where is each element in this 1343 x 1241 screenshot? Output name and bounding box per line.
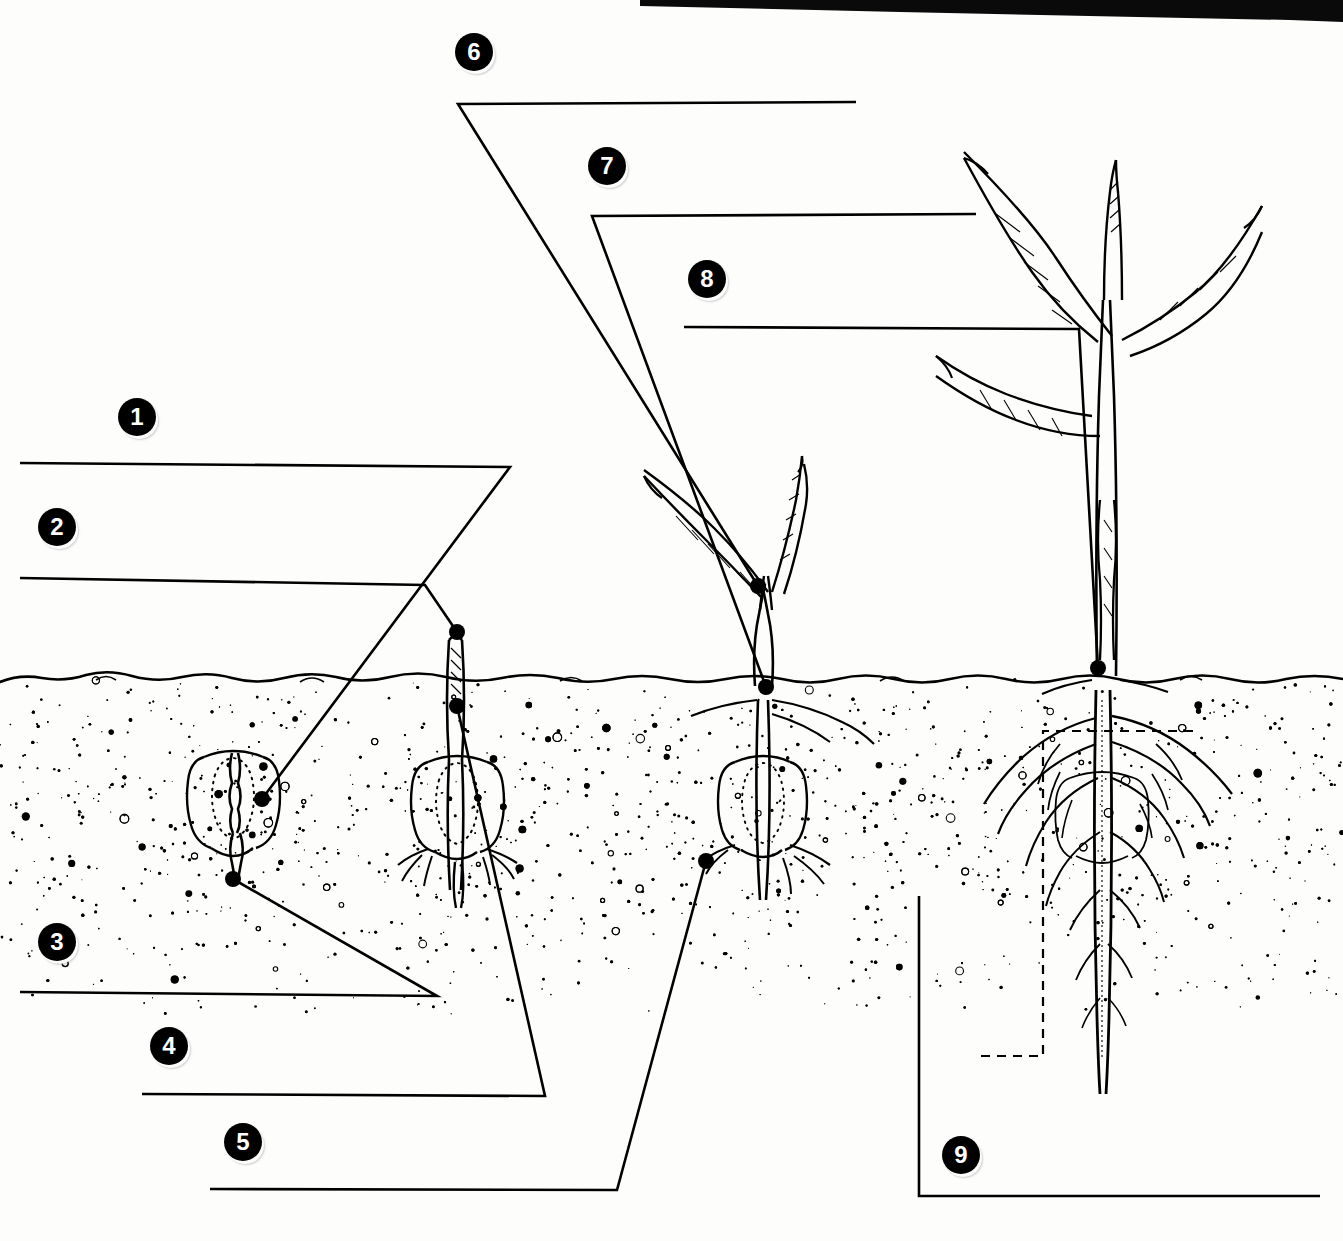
callout-8-anchor-dot [1090, 660, 1106, 676]
callout-8-leader-line [684, 327, 1098, 668]
callout-1-anchor-dot [254, 791, 270, 807]
callout-6-anchor-dot [750, 578, 766, 594]
callout-badge-1[interactable]: 1 [118, 398, 156, 436]
stage-4-established-seedling [936, 152, 1262, 1094]
callout-badge-2[interactable]: 2 [38, 508, 76, 546]
callout-6-leader-line [458, 102, 856, 586]
callout-badge-7[interactable]: 7 [588, 147, 626, 185]
callout-badge-4[interactable]: 4 [150, 1027, 188, 1065]
callout-4-anchor-dot [449, 698, 465, 714]
callout-badge-3[interactable]: 3 [38, 923, 76, 961]
callout-leader-lines [20, 102, 1320, 1196]
callout-5-leader-line [210, 861, 706, 1190]
callout-5-anchor-dot [698, 853, 714, 869]
callout-badge-9[interactable]: 9 [942, 1136, 980, 1174]
callout-1-leader-line [20, 463, 510, 799]
stage-1-imbibed-seed [187, 751, 280, 881]
stage-2-coleoptile-emergence [398, 636, 517, 908]
callout-badge-8[interactable]: 8 [688, 260, 726, 298]
germination-diagram [0, 0, 1343, 1241]
callout-4-leader-line [142, 706, 545, 1096]
callout-3-anchor-dot [225, 871, 241, 887]
callout-2-anchor-dot [449, 624, 465, 640]
callout-9-dashed-box [981, 731, 1200, 1056]
callout-7-leader-line [592, 214, 976, 687]
callout-7-anchor-dot [758, 679, 774, 695]
worksheet-page: 123456789 [0, 0, 1343, 1241]
callout-badge-5[interactable]: 5 [224, 1123, 262, 1161]
callout-badge-6[interactable]: 6 [455, 33, 493, 71]
callout-3-leader-line [20, 879, 437, 996]
top-edge-scan-shadow [640, 0, 1343, 22]
